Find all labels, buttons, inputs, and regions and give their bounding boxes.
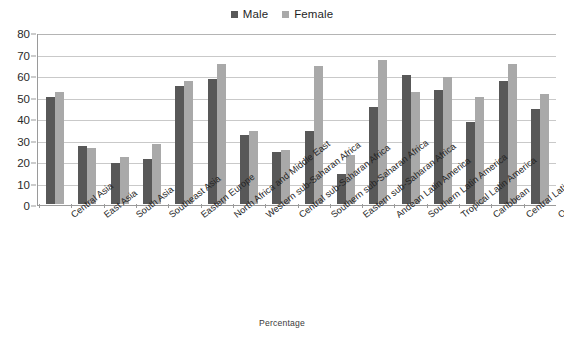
y-tick-mark [31, 184, 36, 185]
bar-male [46, 97, 55, 205]
x-tick-mark [298, 204, 299, 208]
bar-group [136, 34, 168, 204]
x-category-label: Western sub-Saharan Africa [264, 212, 270, 220]
bar-group [168, 34, 200, 204]
legend-swatch-female-icon [282, 11, 289, 18]
x-tick-mark [459, 204, 460, 208]
bar-group [524, 34, 556, 204]
legend-label-male: Male [243, 8, 268, 20]
y-tick-mark [31, 55, 36, 56]
x-tick-mark [71, 204, 72, 208]
bar-male [240, 135, 249, 204]
y-tick-label: 0 [24, 200, 30, 212]
y-tick-label: 60 [17, 71, 30, 83]
bar-male [78, 146, 87, 204]
x-tick-mark [233, 204, 234, 208]
x-axis-title: Percentage [0, 318, 564, 328]
x-tick-mark [39, 204, 40, 208]
y-tick-mark [31, 34, 36, 35]
y-tick-label: 10 [17, 179, 30, 191]
bar-male [305, 131, 314, 204]
x-tick-mark [491, 204, 492, 208]
y-tick-label: 80 [17, 28, 30, 40]
x-tick-mark [265, 204, 266, 208]
x-tick-mark [136, 204, 137, 208]
x-tick-mark [201, 204, 202, 208]
bar-group [39, 34, 71, 204]
y-tick-label: 70 [17, 50, 30, 62]
y-tick-mark [31, 77, 36, 78]
x-category-label: Central sub-Saharan Africa [297, 212, 303, 220]
x-tick-mark [394, 204, 395, 208]
bar-male [175, 86, 184, 204]
legend-entry-female: Female [282, 8, 333, 20]
y-tick-label: 40 [17, 114, 30, 126]
x-axis-category-labels: Central AsiaEast AsiaSouth AsiaSoutheast… [38, 212, 557, 307]
x-category-label: South Asia [134, 212, 140, 220]
x-category-label: Eastern sub-Saharan Africa [361, 212, 367, 220]
x-category-label: Andean Latin America [394, 212, 400, 220]
x-tick-mark [524, 204, 525, 208]
bar-group [71, 34, 103, 204]
y-tick-label: 50 [17, 93, 30, 105]
x-category-label: Central Latin America [524, 212, 530, 220]
bar-female [540, 94, 549, 204]
bar-female [55, 92, 64, 204]
x-category-label: Caribbean [491, 212, 497, 220]
x-tick-mark [104, 204, 105, 208]
y-axis: 01020304050607080 [0, 34, 30, 206]
y-tick-mark [31, 206, 36, 207]
legend-entry-male: Male [231, 8, 268, 20]
bar-group [104, 34, 136, 204]
x-tick-mark [330, 204, 331, 208]
y-tick-label: 30 [17, 136, 30, 148]
x-category-label: East Asia [102, 212, 108, 220]
x-category-label: Southern sub-Saharan Africa [329, 212, 335, 220]
bar-chart: Male Female 01020304050607080 Central As… [0, 0, 564, 343]
y-tick-mark [31, 98, 36, 99]
x-tick-mark [362, 204, 363, 208]
bar-female [475, 97, 484, 205]
y-tick-mark [31, 120, 36, 121]
plot-wrapper: 01020304050607080 [0, 34, 564, 214]
x-category-label: Oceania [556, 212, 562, 220]
x-tick-mark [427, 204, 428, 208]
x-tick-mark [168, 204, 169, 208]
x-category-label: Central Asia [69, 212, 75, 220]
bar-female [184, 81, 193, 204]
x-category-label: Southern Latin America [426, 212, 432, 220]
x-category-label: North Africa and Middle East [232, 212, 238, 220]
y-tick-label: 20 [17, 157, 30, 169]
legend-label-female: Female [294, 8, 333, 20]
legend-swatch-male-icon [231, 11, 238, 18]
x-category-label: Southeast Asia [167, 212, 173, 220]
y-tick-mark [31, 141, 36, 142]
x-category-label: Eastern Europe [199, 212, 205, 220]
x-category-label: Tropical Latin America [459, 212, 465, 220]
y-tick-mark [31, 163, 36, 164]
chart-legend: Male Female [0, 8, 564, 20]
